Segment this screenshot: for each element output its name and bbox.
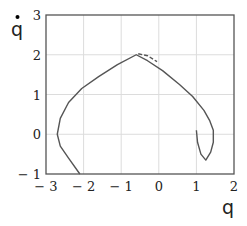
y-tick-label: 0 — [33, 127, 41, 142]
y-tick-label: 2 — [33, 48, 41, 63]
y-tick-label: 1 — [33, 88, 41, 103]
data-series — [57, 54, 213, 174]
y-tick-label: − 1 — [18, 167, 41, 182]
x-tick-label: 2 — [230, 179, 238, 194]
y-tick-label: 3 — [33, 8, 41, 23]
solid-trajectory — [57, 55, 213, 174]
x-tick-label: − 2 — [72, 179, 95, 194]
y-axis-label: q — [11, 15, 23, 40]
phase-portrait-chart: − 3− 2− 1012 − 10123 q q — [0, 0, 247, 226]
x-tick-labels: − 3− 2− 1012 — [34, 179, 238, 194]
dot-accent — [16, 15, 20, 19]
x-tick-label: 0 — [155, 179, 163, 194]
x-tick-label: − 1 — [110, 179, 133, 194]
x-axis-label: q — [222, 196, 234, 218]
x-tick-label: 1 — [192, 179, 200, 194]
grid-lines — [46, 15, 234, 174]
svg-text:q: q — [11, 18, 23, 40]
